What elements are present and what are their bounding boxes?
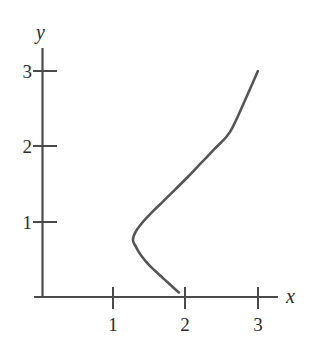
x-tick-label-3: 3 (253, 315, 263, 334)
y-axis-label: y (36, 22, 45, 42)
x-axis-label: x (286, 286, 295, 306)
parametric-curve-figure: 3 2 1 1 2 3 y x (0, 0, 312, 362)
y-tick-label-1: 1 (23, 213, 33, 232)
x-tick-label-1: 1 (108, 315, 118, 334)
x-tick-label-2: 2 (180, 315, 190, 334)
y-tick-label-2: 2 (23, 137, 33, 156)
curve-path (133, 71, 258, 292)
y-tick-label-3: 3 (23, 62, 33, 81)
plot-canvas (0, 0, 312, 362)
